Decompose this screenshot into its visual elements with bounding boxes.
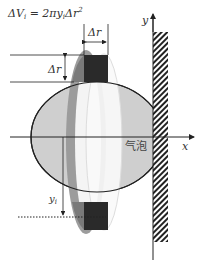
wall <box>153 18 168 260</box>
delta-r-side-label: Δr <box>47 63 62 76</box>
bubble-volume-diagram: y x 气泡 Δr Δr yi ΔVi = 2πyiΔr2 <box>0 0 202 264</box>
bottom-block <box>72 202 108 230</box>
y-axis-label: y <box>141 14 149 27</box>
x-axis-label: x <box>182 140 189 153</box>
volume-formula: ΔVi = 2πyiΔr2 <box>7 6 83 21</box>
delta-r-top-label: Δr <box>87 26 102 39</box>
bubble-label: 气泡 <box>125 139 147 153</box>
y-i-label: yi <box>48 193 57 206</box>
